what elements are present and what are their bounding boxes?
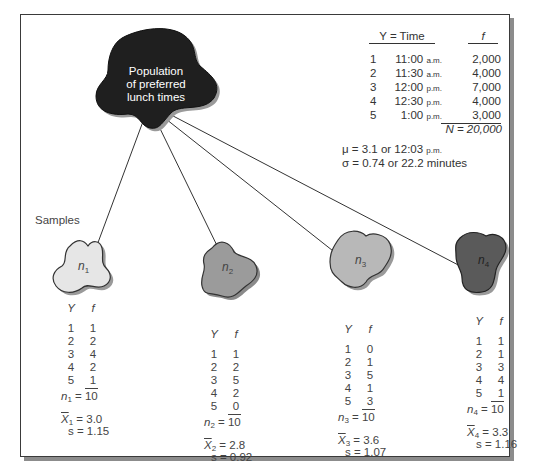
row-y: 4 bbox=[370, 94, 376, 108]
table-header-y-time: Y = Time bbox=[369, 30, 435, 44]
table-row: 3 12:00 p.m. 7,000 bbox=[370, 80, 502, 94]
population-label-line: of preferred bbox=[106, 78, 206, 91]
sample-blob-label-4: n4 bbox=[478, 253, 489, 269]
sample-1-table: Yf 11 22 34 42 51 n1 = 10 X1 = 3.0 s = 1… bbox=[65, 302, 155, 439]
sample-std-dev: s = 1.07 bbox=[345, 445, 435, 460]
table-row: 35 bbox=[342, 369, 432, 382]
sample-4-table: Yf 11 21 33 44 51 n4 = 10 X4 = 3.3 s = 1… bbox=[473, 315, 545, 452]
table-row: 42 bbox=[65, 361, 155, 374]
table-header-f: f bbox=[468, 30, 498, 44]
table-row: 21 bbox=[473, 348, 545, 361]
table-row: 21 bbox=[342, 356, 432, 369]
table-row: 41 bbox=[342, 382, 432, 395]
sample-size: n4 = 10 bbox=[467, 401, 545, 416]
table-row: 5 1:00 p.m. 3,000 bbox=[370, 108, 502, 122]
table-row: 42 bbox=[208, 387, 298, 400]
connector-line-2 bbox=[150, 108, 225, 262]
row-y: 2 bbox=[370, 66, 376, 80]
connector-lines bbox=[93, 106, 464, 268]
sample-std-dev: s = 1.16 bbox=[476, 437, 545, 452]
table-row: 11 bbox=[65, 322, 155, 335]
sample-3-table: Yf 10 21 35 41 53 n3 = 10 X3 = 3.6 s = 1… bbox=[342, 323, 432, 460]
row-f: 4,000 bbox=[458, 94, 501, 108]
connector-line-4 bbox=[154, 106, 464, 268]
population-label-line: lunch times bbox=[106, 91, 206, 104]
sample-header: Yf bbox=[342, 323, 432, 336]
table-row: 4 12:30 p.m. 4,000 bbox=[370, 94, 502, 108]
samples-label: Samples bbox=[35, 214, 80, 226]
sample-2-table: Yf 11 22 35 42 50 n2 = 10 X2 = 2.8 s = 0… bbox=[208, 328, 298, 465]
table-row: 51 bbox=[65, 374, 155, 387]
table-row: 44 bbox=[473, 374, 545, 387]
table-row: 2 11:30 a.m. 4,000 bbox=[370, 66, 502, 80]
sample-header: Yf bbox=[65, 302, 155, 315]
population-std-dev: σ = 0.74 or 22.2 minutes bbox=[342, 156, 467, 170]
population-label: Population of preferred lunch times bbox=[106, 65, 206, 104]
row-y: 1 bbox=[370, 52, 376, 66]
table-row: 35 bbox=[208, 374, 298, 387]
table-row: 1 11:00 a.m. 2,000 bbox=[370, 52, 502, 66]
sample-blob-label-3: n3 bbox=[355, 253, 366, 269]
sample-size: n1 = 10 bbox=[61, 388, 151, 403]
sample-size: n3 = 10 bbox=[338, 409, 428, 424]
row-y: 3 bbox=[370, 80, 376, 94]
connector-line-1 bbox=[93, 108, 148, 256]
row-f: 2,000 bbox=[458, 52, 501, 66]
sample-size: n2 = 10 bbox=[204, 414, 294, 429]
sample-blob-label-1: n1 bbox=[78, 259, 89, 275]
sample-blob-label-2: n2 bbox=[222, 260, 233, 276]
sample-std-dev: s = 0.92 bbox=[211, 450, 301, 465]
table-row: 11 bbox=[208, 348, 298, 361]
table-row: 53 bbox=[342, 395, 432, 408]
table-row: 11 bbox=[473, 335, 545, 348]
row-f: 4,000 bbox=[458, 66, 501, 80]
population-label-line: Population bbox=[106, 65, 206, 78]
population-total: N = 20,000 bbox=[420, 122, 502, 136]
sample-std-dev: s = 1.15 bbox=[68, 424, 158, 439]
table-row: 33 bbox=[473, 361, 545, 374]
connector-line-3 bbox=[152, 108, 342, 258]
table-row: 10 bbox=[342, 343, 432, 356]
table-row: 22 bbox=[208, 361, 298, 374]
table-row: 51 bbox=[473, 387, 545, 400]
table-row: 22 bbox=[65, 335, 155, 348]
row-f: 7,000 bbox=[458, 80, 501, 94]
table-row: 50 bbox=[208, 400, 298, 413]
row-f: 3,000 bbox=[458, 108, 501, 122]
table-row: 34 bbox=[65, 348, 155, 361]
sample-header: Yf bbox=[208, 328, 298, 341]
sample-header: Yf bbox=[473, 315, 545, 328]
row-y: 5 bbox=[370, 108, 376, 122]
